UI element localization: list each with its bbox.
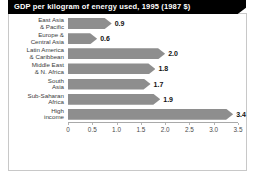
category-label-line: & Pacific xyxy=(6,24,64,31)
bar-row: 1.7 xyxy=(68,77,238,92)
bar-value-label: 1.8 xyxy=(158,63,168,74)
x-tick-label: 2.0 xyxy=(161,126,170,133)
category-label-line: & Caribbean xyxy=(6,54,64,61)
category-label-line: Central Asia xyxy=(6,39,64,46)
bar-value-label: 1.7 xyxy=(154,79,164,90)
bar xyxy=(68,18,112,29)
category-label: Sub-SaharanAfrica xyxy=(6,93,64,106)
bar-row: 1.8 xyxy=(68,61,238,76)
x-tick-label: 2.5 xyxy=(185,126,194,133)
bar-row: 3.4 xyxy=(68,107,238,122)
bar-row: 0.6 xyxy=(68,31,238,46)
bar xyxy=(68,94,160,105)
category-label: Middle East& N. Africa xyxy=(6,62,64,75)
x-tick-label: 1.0 xyxy=(112,126,121,133)
bar-row: 2.0 xyxy=(68,46,238,61)
category-label-line: income xyxy=(6,114,64,121)
category-label-line: Africa xyxy=(6,99,64,106)
category-axis-labels: East Asia& PacificEurope &Central AsiaLa… xyxy=(4,16,64,122)
bar-value-label: 2.0 xyxy=(168,48,178,59)
category-label: Latin America& Caribbean xyxy=(6,47,64,60)
bar xyxy=(68,109,233,120)
category-label-line: & N. Africa xyxy=(6,69,64,76)
x-tick-label: 1.5 xyxy=(136,126,145,133)
category-label: SouthAsia xyxy=(6,78,64,91)
bar-value-label: 0.6 xyxy=(100,33,110,44)
category-label: Highincome xyxy=(6,108,64,121)
category-label-line: Asia xyxy=(6,84,64,91)
bar xyxy=(68,33,97,44)
bar xyxy=(68,48,165,59)
x-tick-label: 3.5 xyxy=(234,126,243,133)
bar-value-label: 1.9 xyxy=(163,94,173,105)
x-tick-label: 0 xyxy=(66,126,70,133)
chart-figure: GDP per kilogram of energy used, 1995 (1… xyxy=(0,0,255,180)
chart-title: GDP per kilogram of energy used, 1995 (1… xyxy=(14,1,190,13)
x-tick-label: 0.5 xyxy=(88,126,97,133)
bar-value-label: 0.9 xyxy=(115,18,125,29)
bar xyxy=(68,63,155,74)
x-tick-label: 3.0 xyxy=(209,126,218,133)
category-label: East Asia& Pacific xyxy=(6,17,64,30)
bar-value-label: 3.4 xyxy=(236,109,246,120)
x-axis-ticks: 00.51.01.52.02.53.03.5 xyxy=(68,123,238,135)
bar xyxy=(68,79,151,90)
category-label: Europe &Central Asia xyxy=(6,32,64,45)
bar-row: 1.9 xyxy=(68,92,238,107)
plot-area: 0.90.62.01.81.71.93.4 xyxy=(68,16,238,122)
bar-row: 0.9 xyxy=(68,16,238,31)
